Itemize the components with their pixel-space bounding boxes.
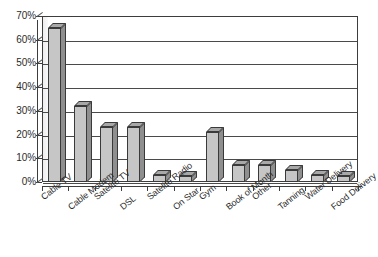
gridline-40 <box>43 88 357 89</box>
x-tick-mark <box>332 186 333 191</box>
x-tick-mark <box>253 186 254 191</box>
x-tick-label-on-star: On Star <box>171 185 201 212</box>
gridline-30 <box>43 112 357 113</box>
x-tick-mark <box>68 186 69 191</box>
gridline-10 <box>43 159 357 160</box>
y-tick-label: 60% <box>0 35 36 45</box>
plot-area <box>42 16 358 182</box>
x-tick-label-dsl: DSL <box>118 193 138 211</box>
gridline-20 <box>43 136 357 137</box>
y-axis: 70%60%50%40%30%20%10%0% <box>0 0 36 257</box>
y-tick-label: 50% <box>0 58 36 68</box>
x-tick-mark <box>358 186 359 191</box>
gridline-50 <box>43 64 357 65</box>
x-tick-label-tanning: Tanning <box>276 185 306 212</box>
y-tick-label: 0% <box>0 177 36 187</box>
x-tick-mark <box>95 186 96 191</box>
y-tick-label: 30% <box>0 106 36 116</box>
y-tick-label: 70% <box>0 11 36 21</box>
x-tick-mark <box>305 186 306 191</box>
y-axis-line <box>37 20 38 182</box>
x-tick-mark <box>226 186 227 191</box>
y-tick-label: 20% <box>0 130 36 140</box>
y-tick-label: 40% <box>0 82 36 92</box>
gridline-60 <box>43 41 357 42</box>
x-tick-mark <box>200 186 201 191</box>
y-tick-label: 10% <box>0 153 36 163</box>
x-tick-mark <box>42 186 43 191</box>
x-tick-mark <box>174 186 175 191</box>
x-tick-mark <box>279 186 280 191</box>
x-tick-mark <box>147 186 148 191</box>
x-tick-mark <box>121 186 122 191</box>
